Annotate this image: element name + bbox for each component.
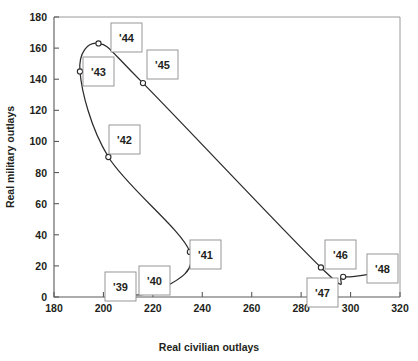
y-tick-label: 120 [29, 104, 47, 116]
year-label: '44 [111, 23, 142, 52]
year-label-text: '47 [315, 287, 330, 299]
year-label-text: '39 [113, 281, 128, 293]
x-tick-label: 220 [144, 302, 162, 314]
x-tick-label: 260 [243, 302, 261, 314]
x-tick-label: 240 [194, 302, 212, 314]
data-point-marker [318, 265, 323, 270]
year-label-text: '43 [91, 66, 106, 78]
year-label: '45 [147, 50, 178, 79]
y-tick-label: 40 [35, 229, 47, 241]
y-tick-label: 20 [35, 260, 47, 272]
year-label: '42 [109, 125, 140, 154]
year-label: '39 [105, 272, 136, 301]
data-point-marker [96, 41, 101, 46]
y-tick-label: 100 [29, 135, 47, 147]
year-label-text: '40 [147, 275, 162, 287]
scatter-line-chart: 180200220240260280300320 020406080100120… [0, 0, 418, 361]
year-label: '40 [139, 266, 170, 295]
chart-container: 180200220240260280300320 020406080100120… [0, 0, 418, 361]
x-tick-label: 200 [95, 302, 113, 314]
data-point-marker [77, 69, 82, 74]
x-tick-label: 300 [342, 302, 360, 314]
y-tick-label: 160 [29, 42, 47, 54]
year-label-text: '44 [119, 32, 135, 44]
y-tick-label: 140 [29, 73, 47, 85]
data-point-marker [341, 274, 346, 279]
year-label-text: '42 [117, 134, 132, 146]
data-point-marker [140, 81, 145, 86]
x-axis-title: Real civilian outlays [159, 341, 260, 353]
x-tick-label: 320 [391, 302, 409, 314]
year-label: '41 [190, 240, 221, 269]
y-tick-label: 60 [35, 198, 47, 210]
y-tick-label: 0 [41, 291, 47, 303]
y-tick-label: 180 [29, 11, 47, 23]
year-label-text: '46 [333, 249, 348, 261]
y-tick-label: 80 [35, 167, 47, 179]
year-label-text: '41 [198, 249, 213, 261]
year-label: '43 [83, 57, 114, 86]
data-point-marker [106, 154, 111, 159]
year-label-text: '48 [375, 263, 390, 275]
year-label: '48 [367, 254, 398, 283]
y-axis-title: Real military outlays [4, 106, 16, 208]
year-label: '46 [325, 240, 356, 269]
x-tick-label: 180 [45, 302, 63, 314]
year-label-text: '45 [155, 59, 170, 71]
year-label: '47 [307, 278, 338, 307]
